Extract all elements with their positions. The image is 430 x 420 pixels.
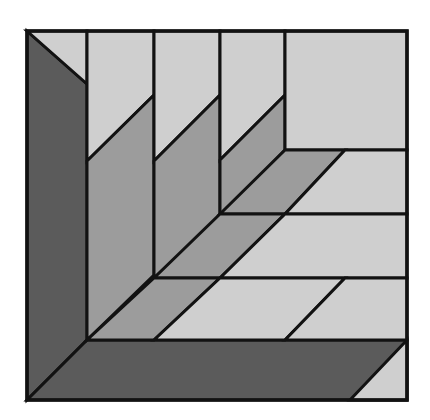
left-dark-column	[27, 31, 87, 400]
bottom-dark-band	[27, 340, 407, 400]
top-right-light-triangle	[285, 31, 407, 150]
geometric-pattern-figure	[0, 0, 430, 420]
pattern-pieces-layer	[27, 31, 407, 400]
figure-root	[0, 0, 430, 420]
